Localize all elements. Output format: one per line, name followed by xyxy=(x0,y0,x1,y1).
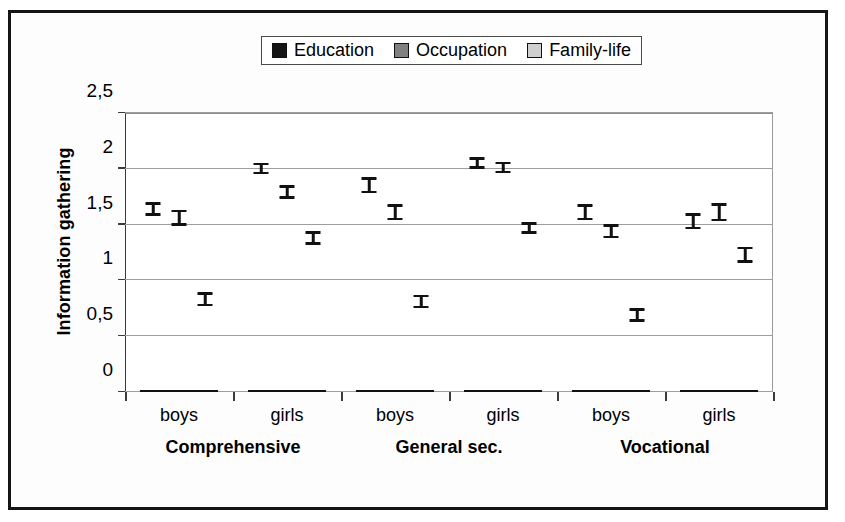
bar-family-life xyxy=(624,390,650,392)
bar-education xyxy=(356,390,382,392)
legend-item-education: Education xyxy=(272,41,374,59)
x-tick-label: girls xyxy=(449,405,557,426)
x-tick-label: boys xyxy=(557,405,665,426)
bar-slot xyxy=(490,390,516,392)
bar-slot xyxy=(192,390,218,392)
x-tick-mark xyxy=(125,392,127,401)
error-bar-cap-lower xyxy=(522,231,537,234)
y-tick-mark xyxy=(118,335,125,337)
bar-cluster xyxy=(125,113,233,392)
legend-item-occupation: Occupation xyxy=(394,41,507,59)
error-bar-cap-lower xyxy=(470,166,485,169)
y-tick-label: 1 xyxy=(102,247,113,269)
error-bar-cap-lower xyxy=(172,223,187,226)
error-bar-cap-upper xyxy=(522,222,537,225)
y-tick-mark xyxy=(118,112,125,114)
error-bar-cap-lower xyxy=(362,191,377,194)
x-tick-mark xyxy=(449,392,451,401)
bar-cluster xyxy=(665,113,773,392)
bar-occupation xyxy=(598,390,624,392)
legend-swatch-occupation xyxy=(394,43,409,58)
bar-occupation xyxy=(490,390,516,392)
bar-slot xyxy=(408,390,434,392)
y-tick-mark xyxy=(118,279,125,281)
x-tick-mark xyxy=(233,392,235,401)
y-tick-mark xyxy=(118,391,125,393)
bar-slot xyxy=(516,390,542,392)
error-bar-cap-lower xyxy=(306,242,321,245)
error-bar-cap-upper xyxy=(470,157,485,160)
bar-slot xyxy=(572,390,598,392)
x-tick-mark xyxy=(665,392,667,401)
error-bar-cap-lower xyxy=(198,304,213,307)
x-tick-label: girls xyxy=(665,405,773,426)
error-bar-cap-upper xyxy=(146,202,161,205)
error-bar-cap-upper xyxy=(738,247,753,250)
legend-label-family-life: Family-life xyxy=(549,41,631,59)
x-axis-labels: boysgirlsboysgirlsboysgirls xyxy=(125,405,773,426)
bar-education xyxy=(680,390,706,392)
error-bar-cap-upper xyxy=(414,295,429,298)
bar-slot xyxy=(356,390,382,392)
y-tick-label: 0,5 xyxy=(87,303,113,325)
legend-label-occupation: Occupation xyxy=(416,41,507,59)
error-bar-cap-upper xyxy=(388,204,403,207)
x-tick-mark xyxy=(773,392,775,401)
error-bar-cap-upper xyxy=(306,231,321,234)
bar-slot xyxy=(166,390,192,392)
bar-slot xyxy=(624,390,650,392)
legend-swatch-family-life xyxy=(527,43,542,58)
bar-slot xyxy=(274,390,300,392)
error-bar-cap-lower xyxy=(738,260,753,263)
legend-item-family-life: Family-life xyxy=(527,41,631,59)
bar-occupation xyxy=(706,390,732,392)
bar-occupation xyxy=(274,390,300,392)
bar-cluster xyxy=(341,113,449,392)
bar-occupation xyxy=(382,390,408,392)
bar-education xyxy=(248,390,274,392)
bar-family-life xyxy=(732,390,758,392)
error-bar-cap-lower xyxy=(146,213,161,216)
figure-panel: Education Occupation Family-life Informa… xyxy=(8,10,828,510)
x-tick-mark xyxy=(557,392,559,401)
bar-education xyxy=(140,390,166,392)
error-bar-cap-upper xyxy=(198,292,213,295)
bar-cluster xyxy=(557,113,665,392)
error-bar-cap-lower xyxy=(388,218,403,221)
x-axis-group-labels: ComprehensiveGeneral sec.Vocational xyxy=(125,437,773,458)
bar-family-life xyxy=(516,390,542,392)
error-bar-cap-lower xyxy=(712,219,727,222)
error-bar-cap-lower xyxy=(496,171,511,174)
bar-education xyxy=(572,390,598,392)
error-bar-cap-lower xyxy=(630,319,645,322)
bar-groups xyxy=(125,113,773,392)
x-tick-label: boys xyxy=(341,405,449,426)
bar-slot xyxy=(140,390,166,392)
y-tick-mark xyxy=(118,223,125,225)
legend-label-education: Education xyxy=(294,41,374,59)
plot-area: 00,511,522,5 xyxy=(125,113,773,392)
error-bar-cap-upper xyxy=(172,210,187,213)
x-group-label: Vocational xyxy=(557,437,773,458)
error-bar-cap-lower xyxy=(414,306,429,309)
x-group-label: General sec. xyxy=(341,437,557,458)
chart-legend: Education Occupation Family-life xyxy=(261,36,642,65)
error-bar-cap-upper xyxy=(496,162,511,165)
bar-family-life xyxy=(192,390,218,392)
bar-cluster xyxy=(233,113,341,392)
error-bar-cap-lower xyxy=(686,227,701,230)
bar-education xyxy=(464,390,490,392)
error-bar-cap-lower xyxy=(604,236,619,239)
bar-slot xyxy=(382,390,408,392)
y-axis-title: Information gathering xyxy=(54,127,75,357)
error-bar-cap-lower xyxy=(254,172,269,175)
y-tick-label: 2,5 xyxy=(87,80,113,102)
bar-occupation xyxy=(166,390,192,392)
x-tick-mark xyxy=(341,392,343,401)
error-bar-cap-upper xyxy=(362,177,377,180)
error-bar-cap-lower xyxy=(578,218,593,221)
y-tick-label: 0 xyxy=(102,359,113,381)
bar-slot xyxy=(680,390,706,392)
error-bar-cap-upper xyxy=(578,204,593,207)
bar-slot xyxy=(464,390,490,392)
